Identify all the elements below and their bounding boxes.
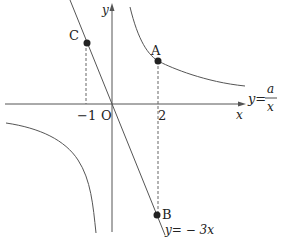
- tick-2: 2: [158, 108, 166, 123]
- point-b: [154, 212, 161, 219]
- x-axis: [5, 102, 246, 107]
- label-a: A: [150, 43, 161, 58]
- hyperbola-branch-left: [6, 123, 96, 233]
- point-a: [155, 58, 162, 65]
- x-axis-label: x: [236, 108, 243, 122]
- y-axis-label: y: [101, 3, 109, 17]
- tick-neg-1: −1: [77, 108, 96, 123]
- line-equation: y= − 3x: [164, 223, 214, 237]
- svg-text:a: a: [267, 82, 274, 96]
- point-c: [84, 40, 91, 47]
- coordinate-diagram: C A B −1 O 2 x y y= a x y= − 3x: [0, 0, 281, 240]
- y-axis-arrow-icon: [110, 3, 115, 11]
- label-c: C: [69, 28, 79, 43]
- svg-text:x: x: [267, 100, 274, 114]
- x-axis-arrow-icon: [238, 102, 246, 107]
- hyperbola-branch-right: [130, 7, 245, 86]
- svg-text:y=: y=: [247, 91, 266, 106]
- origin-label: O: [101, 108, 112, 123]
- hyperbola-equation: y= a x: [247, 82, 277, 114]
- label-b: B: [162, 207, 172, 222]
